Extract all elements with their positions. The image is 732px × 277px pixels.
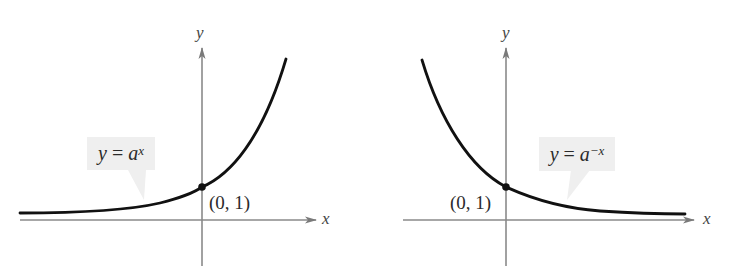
left-point-0-1 [198, 183, 206, 191]
right-eq-equals: = [559, 143, 580, 166]
right-eq-base: a [580, 143, 590, 166]
right-eq-lhs: y [550, 143, 559, 166]
right-x-axis-label: x [703, 210, 711, 227]
left-graph [20, 48, 316, 266]
right-point-0-1 [502, 183, 510, 191]
left-x-axis-label: x [322, 210, 330, 227]
left-eq-equals: = [107, 142, 128, 165]
right-y-axis-label: y [502, 24, 510, 41]
right-point-label: (0, 1) [450, 193, 491, 212]
right-label-pointer [567, 170, 590, 200]
left-eq-base: a [128, 142, 138, 165]
left-equation-label: y = ax [87, 137, 155, 170]
left-label-pointer [128, 170, 146, 200]
left-y-axis-label: y [196, 24, 204, 41]
left-eq-lhs: y [98, 142, 107, 165]
right-equation-label: y = a−x [539, 137, 615, 171]
left-curve [20, 59, 286, 213]
left-point-label: (0, 1) [209, 193, 250, 212]
